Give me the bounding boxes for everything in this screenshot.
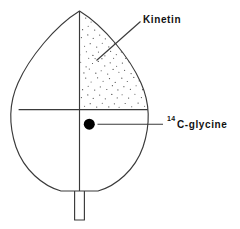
c14-superscript: 14 [167, 115, 175, 122]
c14-glycine-label: 14 C-glycine [167, 115, 227, 130]
leaf-diagram: Kinetin 14 C-glycine [0, 0, 240, 229]
leaf-petiole [75, 191, 85, 220]
glycine-application-point [84, 119, 95, 130]
kinetin-label: Kinetin [143, 14, 181, 25]
c14-glycine-label-text: C-glycine [177, 119, 227, 130]
